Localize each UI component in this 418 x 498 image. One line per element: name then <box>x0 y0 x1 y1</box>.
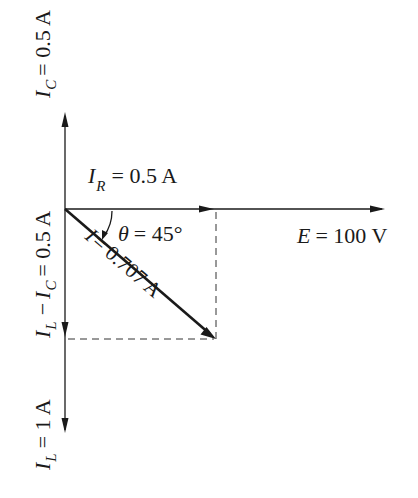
e-phasor <box>65 206 385 213</box>
ir-label: IR= 0.5 A <box>87 163 177 194</box>
ic-label: IC= 0.5 A <box>30 10 59 99</box>
il-label: IL= 1 A <box>30 399 59 471</box>
theta-label: θ= 45° <box>118 221 183 246</box>
ir-phasor <box>199 206 214 213</box>
e-label: E= 100 V <box>296 223 387 248</box>
il-minus-ic-label: IL−IC= 0.5 A <box>30 211 59 339</box>
il-phasor <box>62 209 69 433</box>
phasor-diagram: IC= 0.5 A IR= 0.5 A IL−IC= 0.5 A IL= 1 A… <box>0 0 418 498</box>
ic-phasor <box>62 112 69 209</box>
